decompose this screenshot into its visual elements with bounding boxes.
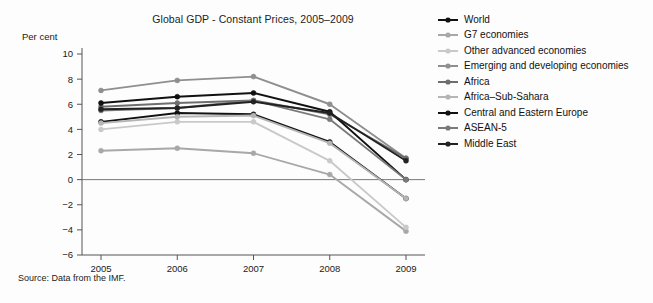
legend-label: Other advanced economies — [464, 46, 586, 56]
y-tick-label: −2 — [62, 199, 73, 210]
source-note: Source: Data from the IMF. — [18, 273, 126, 283]
legend-label: Central and Eastern Europe — [464, 108, 588, 118]
legend-line-marker-icon — [437, 77, 459, 87]
chart-legend: WorldG7 economiesOther advanced economie… — [437, 13, 629, 151]
legend-line-marker-icon — [437, 30, 459, 40]
x-tick-label: 2009 — [395, 263, 416, 274]
legend-line-marker-icon — [437, 15, 459, 25]
legend-label: Africa–Sub-Sahara — [464, 92, 549, 102]
legend-label: Middle East — [464, 139, 516, 149]
legend-item[interactable]: Africa — [437, 75, 629, 89]
legend-item[interactable]: G7 economies — [437, 29, 629, 43]
legend-label: G7 economies — [464, 30, 528, 40]
y-tick-label: 8 — [68, 74, 73, 85]
legend-line-marker-icon — [437, 46, 459, 56]
legend-line-marker-icon — [437, 139, 459, 149]
legend-line-marker-icon — [437, 61, 459, 71]
y-tick-label: −4 — [62, 224, 73, 235]
legend-item[interactable]: Emerging and developing economies — [437, 60, 629, 74]
legend-line-marker-icon — [437, 92, 459, 102]
chart-figure: Global GDP - Constant Prices, 2005–2009 … — [0, 0, 653, 303]
legend-item[interactable]: ASEAN-5 — [437, 122, 629, 136]
legend-line-marker-icon — [437, 108, 459, 118]
y-tick-label: 2 — [68, 149, 73, 160]
legend-item[interactable]: Other advanced economies — [437, 44, 629, 58]
legend-label: Africa — [464, 77, 490, 87]
legend-item[interactable]: Middle East — [437, 137, 629, 151]
y-tick-label: 6 — [68, 99, 73, 110]
legend-label: ASEAN-5 — [464, 123, 507, 133]
legend-item[interactable]: World — [437, 13, 629, 27]
legend-label: Emerging and developing economies — [464, 61, 629, 71]
x-tick-label: 2007 — [243, 263, 264, 274]
legend-item[interactable]: Africa–Sub-Sahara — [437, 91, 629, 105]
series-other-advanced-economies — [99, 119, 409, 230]
y-tick-label: 4 — [68, 124, 73, 135]
y-tick-label: −6 — [62, 249, 73, 260]
legend-label: World — [464, 15, 490, 25]
x-tick-label: 2006 — [167, 263, 188, 274]
legend-item[interactable]: Central and Eastern Europe — [437, 106, 629, 120]
x-tick-label: 2008 — [319, 263, 340, 274]
legend-line-marker-icon — [437, 123, 459, 133]
y-tick-label: 0 — [68, 174, 73, 185]
y-tick-label: 10 — [62, 48, 73, 59]
